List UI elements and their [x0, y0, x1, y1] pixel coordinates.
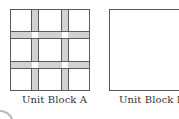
partial-circle-decoration	[0, 110, 14, 119]
unit-block-a-label: Unit Block A	[22, 94, 87, 105]
vertical-band-1	[31, 10, 39, 90]
unit-block-a	[10, 9, 90, 91]
horizontal-band-2	[11, 61, 89, 69]
intersection-square	[62, 32, 68, 38]
unit-block-b-label: Unit Block B	[119, 94, 179, 105]
intersection-square	[32, 32, 38, 38]
vertical-band-2	[61, 10, 69, 90]
unit-block-b	[109, 9, 179, 91]
intersection-square	[62, 62, 68, 68]
intersection-square	[32, 62, 38, 68]
horizontal-band-1	[11, 31, 89, 39]
